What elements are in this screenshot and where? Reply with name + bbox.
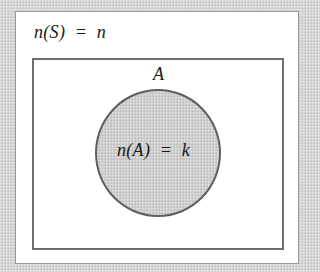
universe-size-label: n(S) = n [34,22,106,43]
set-a-size-label: n(A) = k [117,140,190,161]
set-a-label: A [153,64,164,85]
